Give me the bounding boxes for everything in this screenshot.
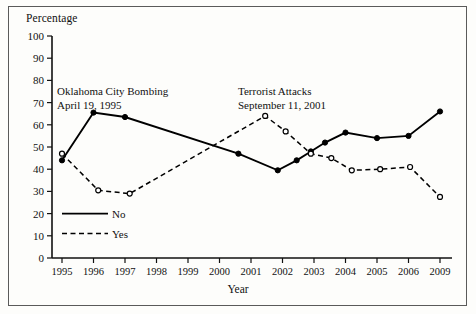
legend-label-yes: Yes xyxy=(112,228,128,240)
data-point-yes-3 xyxy=(263,113,268,118)
series-line-no xyxy=(62,111,440,170)
annotation-line: September 11, 2001 xyxy=(238,99,326,113)
y-tick-label: 100 xyxy=(18,30,44,42)
data-point-no-5 xyxy=(294,158,299,163)
data-point-no-7 xyxy=(322,140,327,145)
series-line-yes xyxy=(62,116,440,197)
series-no xyxy=(59,109,442,173)
annotation-line: April 19, 1995 xyxy=(57,99,168,113)
axis-lines xyxy=(52,36,452,258)
data-point-no-0 xyxy=(59,158,64,163)
y-tick-label: 30 xyxy=(18,185,44,197)
data-point-no-8 xyxy=(343,130,348,135)
annotation-oklahoma: Oklahoma City BombingApril 19, 1995 xyxy=(57,85,168,112)
y-tick-label: 90 xyxy=(18,52,44,64)
data-point-yes-8 xyxy=(378,167,383,172)
data-point-yes-7 xyxy=(349,168,354,173)
y-tick-label: 80 xyxy=(18,74,44,86)
y-tick-label: 10 xyxy=(18,230,44,242)
y-tick-label: 70 xyxy=(18,97,44,109)
data-point-no-9 xyxy=(374,136,379,141)
annotation-line: Terrorist Attacks xyxy=(238,85,326,99)
data-point-no-2 xyxy=(122,114,127,119)
y-tick-label: 0 xyxy=(18,252,44,264)
y-tick-label: 20 xyxy=(18,208,44,220)
series-yes xyxy=(60,113,443,199)
y-tick-label: 50 xyxy=(18,141,44,153)
chart-figure: Percentage Year 0102030405060708090100 1… xyxy=(0,0,476,314)
data-series-layer xyxy=(59,109,442,200)
data-point-yes-6 xyxy=(329,156,334,161)
data-point-no-11 xyxy=(437,109,442,114)
data-point-yes-0 xyxy=(60,151,65,156)
data-point-yes-9 xyxy=(408,164,413,169)
data-point-no-10 xyxy=(406,133,411,138)
annotation-terrorist: Terrorist AttacksSeptember 11, 2001 xyxy=(238,85,326,112)
legend-sample-lines xyxy=(62,214,108,234)
data-point-yes-2 xyxy=(127,191,132,196)
annotation-line: Oklahoma City Bombing xyxy=(57,85,168,99)
data-point-no-3 xyxy=(236,151,241,156)
x-tick-label: 2009 xyxy=(420,266,460,277)
data-point-yes-10 xyxy=(438,194,443,199)
data-point-no-4 xyxy=(275,168,280,173)
data-point-yes-1 xyxy=(96,188,101,193)
legend-label-no: No xyxy=(112,208,125,220)
y-tick-label: 60 xyxy=(18,119,44,131)
data-point-yes-4 xyxy=(283,129,288,134)
y-tick-label: 40 xyxy=(18,163,44,175)
data-point-yes-5 xyxy=(308,151,313,156)
